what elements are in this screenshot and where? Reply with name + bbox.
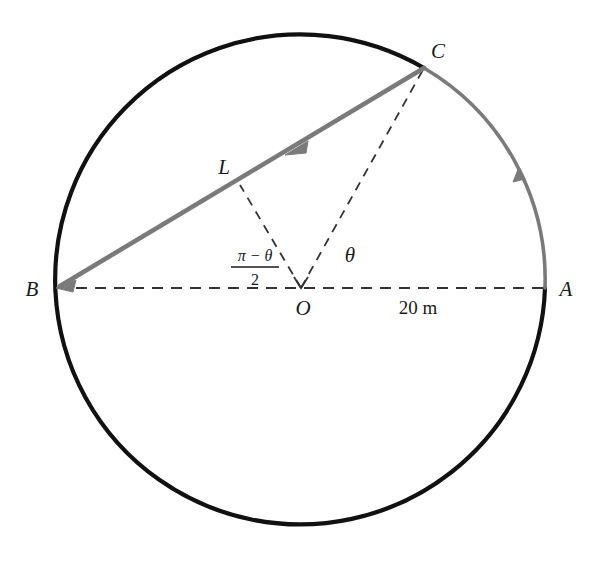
perpendicular-line-ol [240, 185, 301, 288]
label-angle-theta: θ [345, 243, 355, 267]
label-point-b: B [26, 277, 39, 301]
geometry-diagram: A B C O L θ 20 m π − θ 2 [0, 0, 603, 568]
label-point-l: L [217, 155, 230, 179]
circle-outline [55, 34, 545, 524]
label-point-o: O [295, 296, 310, 320]
label-radius-length: 20 m [399, 297, 438, 318]
center-tick-mark [294, 277, 308, 288]
arc-highlight-a-to-c [424, 68, 545, 288]
label-point-c: C [431, 39, 446, 63]
arc-direction-arrowhead-icon [513, 167, 525, 182]
label-angle-half-pi-minus-theta: π − θ 2 [231, 247, 279, 288]
fraction-numerator: π − θ [238, 247, 273, 264]
fraction-denominator: 2 [251, 271, 259, 288]
circle-diagram-canvas: A B C O L θ 20 m π − θ 2 [0, 0, 603, 568]
label-point-a: A [558, 277, 573, 301]
radius-line-oc [301, 68, 424, 288]
